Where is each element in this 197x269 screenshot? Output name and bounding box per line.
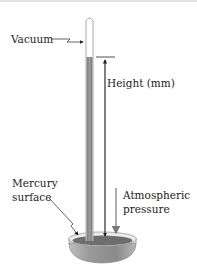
vacuum-label: Vacuum (11, 33, 53, 45)
mercury-column (87, 57, 93, 241)
height-label: Height (mm) (107, 77, 175, 89)
mercury-dish (69, 232, 137, 263)
atmospheric-pressure-label-line1: Atmospheric (123, 189, 190, 201)
mercury-surface-pointer (49, 198, 78, 235)
mercury-surface-label-line1: Mercury (12, 177, 58, 189)
glass-tube (86, 18, 93, 241)
mercury-surface-label-line2: surface (12, 191, 51, 203)
vacuum-pointer (51, 39, 83, 42)
atmospheric-pressure-label-line2: pressure (123, 203, 170, 215)
